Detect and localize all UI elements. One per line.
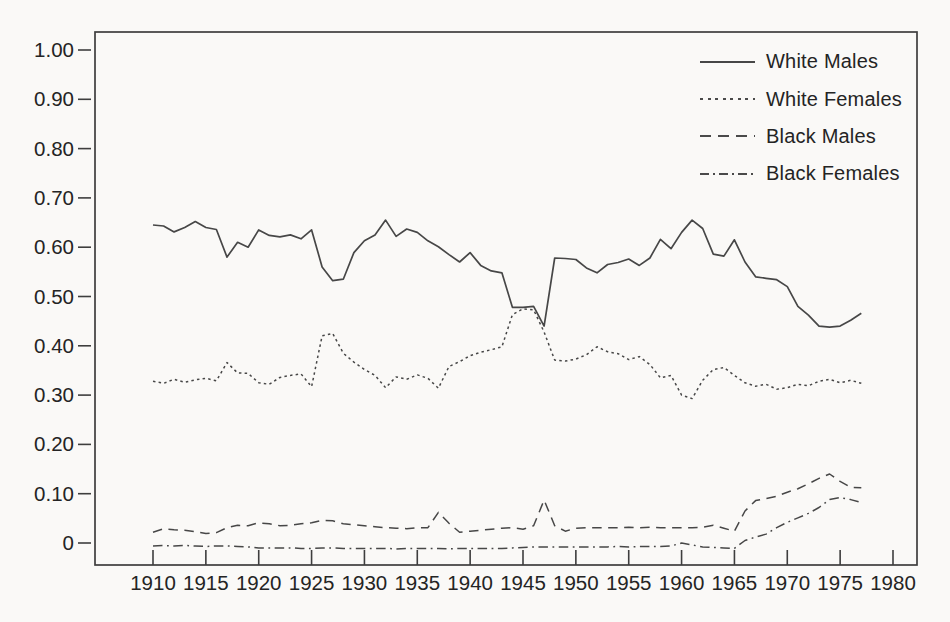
figure: 00.100.200.300.400.500.600.700.800.901.0…: [0, 0, 950, 622]
series-black-females: [153, 498, 861, 549]
legend-label-black-males: Black Males: [766, 125, 876, 148]
x-tick-label-1915: 1915: [183, 571, 229, 594]
legend-label-white-females: White Females: [766, 88, 902, 111]
y-tick-label-1.00: 1.00: [34, 38, 74, 61]
series-black-males: [153, 474, 861, 534]
legend-item-white-males: White Males: [700, 43, 902, 80]
series-white-females: [153, 309, 861, 399]
y-tick-label-0.30: 0.30: [34, 383, 74, 406]
x-tick-label-1960: 1960: [659, 571, 705, 594]
y-tick-label-0.10: 0.10: [34, 482, 74, 505]
x-tick-label-1965: 1965: [712, 571, 758, 594]
black-females-line-sample: [700, 173, 755, 175]
x-tick-label-1935: 1935: [394, 571, 440, 594]
legend-item-black-males: Black Males: [700, 118, 902, 155]
y-tick-label-0.60: 0.60: [34, 235, 74, 258]
y-tick-label-0.50: 0.50: [34, 285, 74, 308]
y-tick-label-0: 0: [63, 531, 74, 554]
y-tick-label-0.80: 0.80: [34, 137, 74, 160]
black-males-line-sample: [700, 135, 755, 137]
x-tick-label-1920: 1920: [236, 571, 282, 594]
x-tick-label-1950: 1950: [553, 571, 599, 594]
legend-item-black-females: Black Females: [700, 155, 902, 192]
y-tick-label-0.40: 0.40: [34, 334, 74, 357]
y-tick-label-0.90: 0.90: [34, 87, 74, 110]
white-males-line-sample: [700, 61, 755, 63]
x-tick-label-1975: 1975: [817, 571, 863, 594]
y-tick-label-0.20: 0.20: [34, 432, 74, 455]
legend-label-white-males: White Males: [766, 50, 878, 73]
series-white-males: [153, 220, 861, 327]
legend-label-black-females: Black Females: [766, 162, 900, 185]
x-tick-label-1930: 1930: [342, 571, 388, 594]
legend-item-white-females: White Females: [700, 80, 902, 117]
white-females-line-sample: [700, 98, 755, 100]
x-tick-label-1955: 1955: [606, 571, 652, 594]
x-tick-label-1945: 1945: [500, 571, 546, 594]
y-tick-label-0.70: 0.70: [34, 186, 74, 209]
x-tick-label-1980: 1980: [870, 571, 916, 594]
x-tick-label-1940: 1940: [447, 571, 493, 594]
legend: White Males White Females Black Males Bl…: [700, 43, 902, 193]
x-tick-label-1925: 1925: [289, 571, 335, 594]
x-tick-label-1970: 1970: [764, 571, 810, 594]
x-tick-label-1910: 1910: [130, 571, 176, 594]
